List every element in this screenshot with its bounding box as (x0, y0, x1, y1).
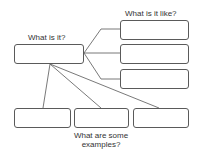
label-examples-line1: What are some (70, 131, 132, 140)
connector-center-example-2 (50, 64, 101, 108)
box-example-1[interactable] (14, 108, 71, 128)
box-example-2[interactable] (74, 108, 129, 128)
box-what-is-it-like-3[interactable] (120, 69, 189, 89)
label-what-is-it-like: What is it like? (125, 9, 177, 18)
label-examples: What are some examples? (70, 131, 132, 149)
box-what-is-it[interactable] (14, 44, 84, 64)
connector-center-like-3 (84, 53, 120, 79)
connector-center-like-1 (84, 29, 120, 53)
box-what-is-it-like-2[interactable] (120, 44, 189, 64)
box-what-is-it-like-1[interactable] (120, 20, 189, 40)
connector-center-example-1 (43, 64, 50, 108)
label-what-is-it: What is it? (28, 33, 65, 42)
concept-map: What is it? What is it like? What are so… (0, 0, 199, 161)
label-examples-line2: examples? (70, 140, 132, 149)
box-example-3[interactable] (133, 108, 189, 128)
